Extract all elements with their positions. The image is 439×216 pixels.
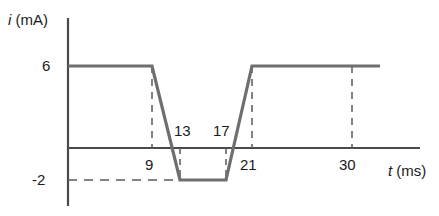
y-tick-label-minus2: -2 [32, 172, 45, 187]
y-axis-unit: (mA) [16, 11, 49, 28]
y-tick-label-6: 6 [42, 58, 50, 73]
x-axis-label: t (ms) [388, 163, 426, 178]
waveform-plot [0, 0, 439, 216]
current-waveform-figure: i (mA) t (ms) 6 -2 9 13 17 21 30 [0, 0, 439, 216]
x-tick-label-17: 17 [213, 123, 230, 138]
x-tick-label-21: 21 [240, 157, 257, 172]
x-tick-label-9: 9 [145, 157, 153, 172]
x-axis-unit: (ms) [396, 162, 426, 179]
y-axis-label: i (mA) [8, 12, 48, 27]
x-tick-label-30: 30 [339, 157, 356, 172]
x-tick-label-13: 13 [174, 123, 191, 138]
